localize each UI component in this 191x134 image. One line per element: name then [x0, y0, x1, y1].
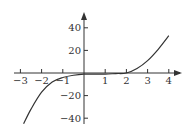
y-axis: [81, 12, 87, 124]
x-axis-arrow-icon: [174, 70, 182, 76]
y-tick-label: −20: [60, 90, 81, 101]
x-tick-label: −3: [13, 75, 28, 86]
x-tick-label: 2: [123, 75, 129, 86]
x-tick-label: 1: [102, 75, 108, 86]
x-tick-label: −2: [34, 75, 49, 86]
x-tick-label: 3: [144, 75, 150, 86]
y-tick-label: 40: [68, 22, 81, 33]
x-tick-label: 4: [166, 75, 172, 86]
x-ticks: −3−2−11234: [13, 69, 172, 86]
function-graph: −3−2−11234 4020−20−40: [0, 0, 191, 134]
y-tick-label: 20: [68, 45, 81, 56]
y-tick-label: −40: [60, 113, 81, 124]
y-axis-arrow-icon: [81, 12, 87, 20]
